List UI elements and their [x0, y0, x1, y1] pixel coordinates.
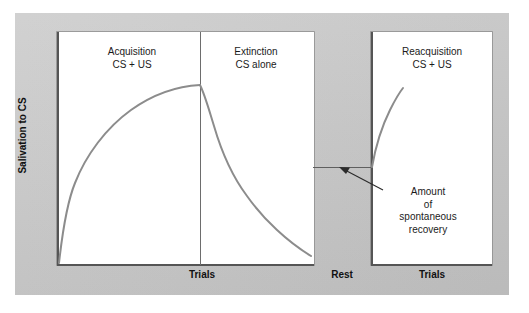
- right-panel-y-axis: [371, 32, 373, 266]
- phase-label-acquisition-line2: CS + US: [78, 59, 186, 72]
- left-panel-y-axis: [57, 32, 59, 266]
- x-axis-title-right: Trials: [396, 269, 468, 280]
- phase-label-reacquisition-line2: CS + US: [374, 59, 490, 72]
- phase-label-reacquisition: Reacquisition CS + US: [374, 46, 490, 71]
- x-axis-title-rest: Rest: [315, 269, 369, 280]
- x-axis-title-left: Trials: [162, 269, 242, 280]
- rest-plateau-line: [313, 167, 372, 168]
- phase-label-acquisition: Acquisition CS + US: [78, 46, 186, 71]
- phase-label-extinction-line2: CS alone: [206, 59, 306, 72]
- phase-divider-line: [200, 32, 201, 265]
- right-panel-x-axis: [371, 264, 492, 266]
- left-panel-x-axis: [57, 264, 314, 266]
- phase-label-reacquisition-line1: Reacquisition: [374, 46, 490, 59]
- annotation-line-2: of: [381, 199, 475, 212]
- annotation-line-1: Amount: [381, 186, 475, 199]
- phase-label-acquisition-line1: Acquisition: [78, 46, 186, 59]
- phase-label-extinction-line1: Extinction: [206, 46, 306, 59]
- y-axis-title: Salivation to CS: [17, 81, 28, 191]
- figure-root: Acquisition CS + US Extinction CS alone …: [0, 0, 529, 313]
- phase-label-extinction: Extinction CS alone: [206, 46, 306, 71]
- annotation-line-3: spontaneous: [381, 211, 475, 224]
- annotation-line-4: recovery: [381, 224, 475, 237]
- annotation-spontaneous-recovery: Amount of spontaneous recovery: [381, 186, 475, 236]
